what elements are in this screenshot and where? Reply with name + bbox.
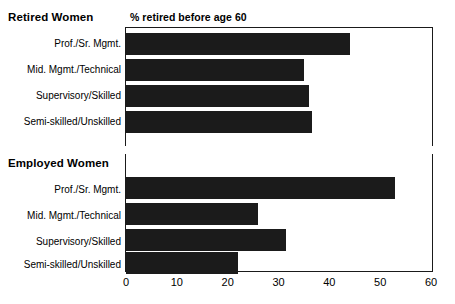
plot-area-retired	[125, 27, 433, 146]
x-axis: 0 10 20 30 40 50 60	[125, 272, 433, 302]
panel-title-retired: % retired before age 60	[130, 11, 247, 23]
x-tick-2: 20	[222, 276, 234, 288]
category-label-semi-skilled-unskilled-employed: Semi-skilled/Unskilled	[24, 259, 121, 270]
grouped-bar-chart: Retired Women Employed Women % retired b…	[0, 0, 455, 304]
bar-retired-1	[126, 59, 304, 81]
category-label-prof-sr-mgmt-employed: Prof./Sr. Mgmt.	[54, 184, 121, 195]
plot-area-employed	[125, 154, 433, 272]
x-tick-3: 30	[272, 276, 284, 288]
bar-retired-2	[126, 85, 309, 107]
bar-employed-1	[126, 203, 258, 225]
x-tick-4: 40	[323, 276, 335, 288]
category-label-supervisory-skilled-employed: Supervisory/Skilled	[36, 236, 121, 247]
category-label-mid-mgmt-technical-retired: Mid. Mgmt./Technical	[27, 64, 121, 75]
x-tick-5: 50	[374, 276, 386, 288]
x-tick-6: 60	[425, 276, 437, 288]
bar-retired-0	[126, 33, 350, 55]
category-label-mid-mgmt-technical-employed: Mid. Mgmt./Technical	[27, 210, 121, 221]
x-tick-0: 0	[123, 276, 129, 288]
category-label-prof-sr-mgmt-retired: Prof./Sr. Mgmt.	[54, 38, 121, 49]
x-tick-1: 10	[171, 276, 183, 288]
category-label-semi-skilled-unskilled-retired: Semi-skilled/Unskilled	[24, 116, 121, 127]
bar-retired-3	[126, 111, 312, 133]
bar-employed-2	[126, 229, 286, 251]
group-heading-employed-women: Employed Women	[8, 157, 109, 169]
group-heading-retired-women: Retired Women	[8, 11, 93, 23]
bar-employed-3	[126, 252, 238, 274]
bar-employed-0	[126, 177, 395, 199]
category-label-supervisory-skilled-retired: Supervisory/Skilled	[36, 90, 121, 101]
